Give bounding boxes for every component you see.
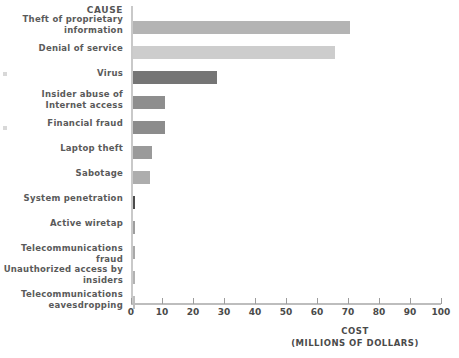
x-axis-title-units: (MILLIONS OF DOLLARS) [260,337,450,349]
bar-row-label: System penetration [0,193,123,204]
x-axis-tick [317,298,318,304]
bar-row: Insider abuse ofInternet access [0,93,459,118]
x-axis-tick [441,298,442,304]
x-axis-tick [224,298,225,304]
x-axis-tick [255,298,256,304]
bar-row-label: Sabotage [0,168,123,179]
bar-track [133,168,443,193]
x-axis-tick [379,298,380,304]
x-axis-title-main: COST [260,325,450,337]
bar-row-label: Theft of proprietaryinformation [0,14,123,35]
bar-row: Financial fraud [0,118,459,143]
bar-row: System penetration [0,193,459,218]
x-axis-tick [193,298,194,304]
bar-rows: Theft of proprietaryinformationDenial of… [0,18,459,318]
bar [133,196,135,209]
bar-row-label: Active wiretap [0,218,123,229]
bar-row-label: Insider abuse ofInternet access [0,89,123,110]
x-axis-tick [286,298,287,304]
bar [133,21,350,34]
bar-row-label: Telecommunications fraud [0,243,123,264]
bar [133,46,335,59]
bar-track [133,118,443,143]
x-axis-tick [162,298,163,304]
bar [133,71,217,84]
x-axis-tick [410,298,411,304]
bar [133,121,165,134]
bar-row: Sabotage [0,168,459,193]
bar-track [133,143,443,168]
x-axis-tick-label: 100 [421,307,459,317]
bar-track [133,243,443,268]
bar [133,146,152,159]
bar-row-label-line2: Internet access [45,100,123,110]
bar-row-label-line2: insiders [83,275,123,285]
bar-track [133,18,443,43]
bar-row: Laptop theft [0,143,459,168]
x-axis-tick [348,298,349,304]
bar-row-label: Unauthorized access byinsiders [0,264,123,285]
bar-track [133,93,443,118]
bar-row: Denial of service [0,43,459,68]
x-axis-tick [131,298,132,304]
x-axis-ticks [131,298,441,305]
bar [133,96,165,109]
bar-row-label: Laptop theft [0,143,123,154]
bar [133,246,135,259]
bar-row: Active wiretap [0,218,459,243]
bar-row-label: Financial fraud [0,118,123,129]
bar-track [133,193,443,218]
bar [133,171,150,184]
bar-row-label: Denial of service [0,43,123,54]
bar-track [133,218,443,243]
bar [133,271,135,284]
bar-chart: CAUSE Theft of proprietaryinformationDen… [0,0,459,358]
bar [133,221,135,234]
bar-row: Theft of proprietaryinformation [0,18,459,43]
bar-track [133,43,443,68]
bar-track [133,268,443,293]
x-axis-tick-labels: 0102030405060708090100 [0,307,459,321]
bar-track [133,68,443,93]
bar-row-label-line2: information [64,25,123,35]
x-axis-title: COST (MILLIONS OF DOLLARS) [260,325,450,349]
bar-row-label: Virus [0,68,123,79]
